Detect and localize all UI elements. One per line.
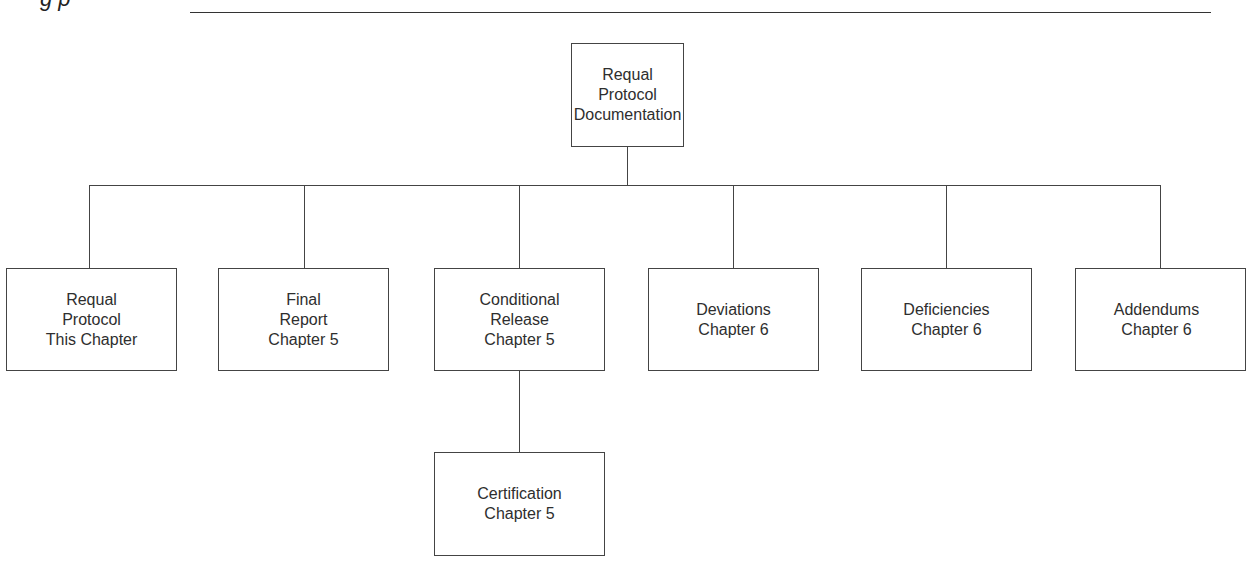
node-requal-protocol: Requal Protocol This Chapter	[6, 268, 177, 371]
node-final-report: Final Report Chapter 5	[218, 268, 389, 371]
node-requal-protocol-documentation: Requal Protocol Documentation	[571, 43, 684, 147]
connector-drop-5	[946, 185, 947, 268]
node-label: Conditional	[479, 290, 559, 310]
node-label: Requal	[66, 290, 117, 310]
node-deficiencies: Deficiencies Chapter 6	[861, 268, 1032, 371]
node-label: Protocol	[62, 310, 121, 330]
node-label: Requal	[602, 65, 653, 85]
connector-drop-2	[304, 185, 305, 268]
node-label: Deficiencies	[903, 300, 989, 320]
node-label: Protocol	[598, 85, 657, 105]
node-label: Chapter 6	[911, 320, 981, 340]
node-label: Chapter 6	[698, 320, 768, 340]
connector-drop-4	[733, 185, 734, 268]
node-label: This Chapter	[46, 330, 138, 350]
node-label: Chapter 5	[484, 504, 554, 524]
node-label: Deviations	[696, 300, 771, 320]
node-label: Certification	[477, 484, 561, 504]
node-deviations: Deviations Chapter 6	[648, 268, 819, 371]
node-label: Chapter 5	[268, 330, 338, 350]
node-label: Documentation	[574, 105, 682, 125]
node-label: Chapter 5	[484, 330, 554, 350]
node-label: Report	[279, 310, 327, 330]
node-certification: Certification Chapter 5	[434, 452, 605, 556]
node-conditional-release: Conditional Release Chapter 5	[434, 268, 605, 371]
node-label: Release	[490, 310, 549, 330]
connector-bus	[89, 185, 1161, 186]
figure-caption-clipped: g p	[40, 0, 71, 12]
connector-drop-3	[519, 185, 520, 268]
node-addendums: Addendums Chapter 6	[1075, 268, 1246, 371]
connector-drop-6	[1160, 185, 1161, 268]
connector-drop-1	[89, 185, 90, 268]
connector-root-stem	[627, 147, 628, 185]
connector-conditional-to-certification	[519, 371, 520, 453]
node-label: Final	[286, 290, 321, 310]
node-label: Chapter 6	[1121, 320, 1191, 340]
header-rule	[190, 12, 1211, 13]
node-label: Addendums	[1114, 300, 1199, 320]
